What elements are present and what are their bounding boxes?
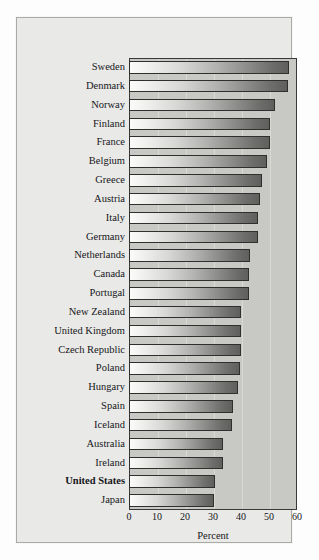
x-tick-label: 0 bbox=[127, 511, 132, 522]
category-label: Spain bbox=[35, 397, 125, 416]
category-label: Norway bbox=[35, 96, 125, 115]
bar bbox=[129, 325, 241, 338]
bar bbox=[129, 136, 270, 149]
category-label: Germany bbox=[35, 228, 125, 247]
bar-row bbox=[129, 152, 297, 171]
category-label: France bbox=[35, 133, 125, 152]
category-label: Italy bbox=[35, 209, 125, 228]
category-label: Poland bbox=[35, 359, 125, 378]
chart-figure: SwedenDenmarkNorwayFinlandFranceBelgiumG… bbox=[0, 0, 319, 560]
bar-row bbox=[129, 171, 297, 190]
bar-row bbox=[129, 115, 297, 134]
category-label: Australia bbox=[35, 435, 125, 454]
category-label: Greece bbox=[35, 171, 125, 190]
bar-row bbox=[129, 397, 297, 416]
bar-row bbox=[129, 472, 297, 491]
category-label: Ireland bbox=[35, 454, 125, 473]
category-label: Belgium bbox=[35, 152, 125, 171]
bar-row bbox=[129, 58, 297, 77]
bar-row bbox=[129, 133, 297, 152]
x-axis-ticks: 0102030405060 bbox=[129, 511, 297, 527]
bar bbox=[129, 306, 241, 319]
category-label: Sweden bbox=[35, 58, 125, 77]
x-axis-title: Percent bbox=[129, 530, 297, 541]
bar bbox=[129, 400, 233, 413]
category-label: Canada bbox=[35, 265, 125, 284]
bar-row bbox=[129, 491, 297, 510]
category-label: Portugal bbox=[35, 284, 125, 303]
bar-row bbox=[129, 322, 297, 341]
bar bbox=[129, 457, 223, 470]
category-label: New Zealand bbox=[35, 303, 125, 322]
chart-panel: SwedenDenmarkNorwayFinlandFranceBelgiumG… bbox=[16, 17, 292, 543]
bar-row bbox=[129, 246, 297, 265]
bar bbox=[129, 438, 223, 451]
x-tick-label: 20 bbox=[180, 511, 190, 522]
bar bbox=[129, 494, 214, 507]
bar bbox=[129, 118, 270, 131]
category-label: Iceland bbox=[35, 416, 125, 435]
bar bbox=[129, 362, 240, 375]
bar bbox=[129, 155, 267, 168]
category-label: United Kingdom bbox=[35, 322, 125, 341]
category-label: Netherlands bbox=[35, 246, 125, 265]
bar bbox=[129, 61, 289, 74]
bar-row bbox=[129, 228, 297, 247]
bar-row bbox=[129, 435, 297, 454]
bar-row bbox=[129, 303, 297, 322]
bar bbox=[129, 381, 238, 394]
bars-layer bbox=[129, 58, 297, 510]
category-label: United States bbox=[35, 472, 125, 491]
category-label: Japan bbox=[35, 491, 125, 510]
bar bbox=[129, 99, 275, 112]
category-label: Denmark bbox=[35, 77, 125, 96]
bar bbox=[129, 231, 258, 244]
bar bbox=[129, 344, 241, 357]
bar bbox=[129, 193, 260, 206]
bar-row bbox=[129, 265, 297, 284]
x-tick-label: 50 bbox=[264, 511, 274, 522]
category-label: Finland bbox=[35, 115, 125, 134]
bar bbox=[129, 174, 262, 187]
category-labels: SwedenDenmarkNorwayFinlandFranceBelgiumG… bbox=[35, 58, 125, 510]
bar bbox=[129, 287, 249, 300]
bar-row bbox=[129, 96, 297, 115]
x-tick-label: 40 bbox=[236, 511, 246, 522]
x-tick-label: 60 bbox=[292, 511, 302, 522]
category-label: Czech Republic bbox=[35, 341, 125, 360]
category-label: Hungary bbox=[35, 378, 125, 397]
bar-row bbox=[129, 416, 297, 435]
bar-row bbox=[129, 190, 297, 209]
bar-row bbox=[129, 209, 297, 228]
category-label: Austria bbox=[35, 190, 125, 209]
x-tick-label: 10 bbox=[152, 511, 162, 522]
bar-row bbox=[129, 454, 297, 473]
bar-row bbox=[129, 77, 297, 96]
bar-row bbox=[129, 359, 297, 378]
bar bbox=[129, 212, 258, 225]
x-tick-label: 30 bbox=[208, 511, 218, 522]
bar bbox=[129, 419, 232, 432]
bar bbox=[129, 268, 249, 281]
bar-row bbox=[129, 341, 297, 360]
bar bbox=[129, 475, 215, 488]
bar-row bbox=[129, 284, 297, 303]
bar bbox=[129, 80, 288, 93]
bar bbox=[129, 249, 250, 262]
bar-row bbox=[129, 378, 297, 397]
